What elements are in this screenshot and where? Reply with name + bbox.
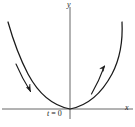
right-branch-motion-arrow — [92, 66, 105, 94]
vertex-label-value: 0 — [58, 109, 62, 118]
right-arrow-shaft — [92, 66, 105, 94]
y-axis-label: y — [67, 1, 71, 9]
left-branch-motion-arrow — [16, 64, 31, 92]
parabola-curve — [8, 22, 122, 109]
figure-canvas — [0, 0, 135, 127]
vertex-label-equals: = — [49, 109, 58, 118]
vertex-time-annotation: t = 0 — [47, 110, 62, 118]
right-arrow-head-icon — [100, 66, 105, 71]
x-axis-label: x — [125, 104, 129, 112]
parabola-figure: y x t = 0 — [0, 0, 135, 127]
